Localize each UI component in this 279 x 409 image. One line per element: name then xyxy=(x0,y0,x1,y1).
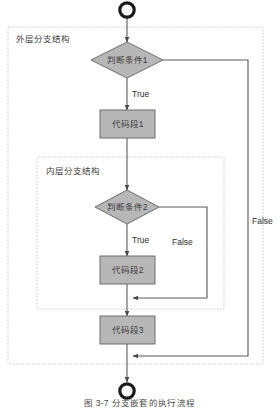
start-terminator xyxy=(120,3,134,17)
flowchart-figure: 外层分支结构 内层分支结构 判断条件1 代码段1 判断条件2 xyxy=(0,0,279,409)
process-code3-label: 代码段3 xyxy=(112,325,144,335)
edge-label-inner-true: True xyxy=(132,235,149,245)
edge-label-inner-false: False xyxy=(172,237,193,247)
outer-branch-label: 外层分支结构 xyxy=(16,34,70,44)
process-code1-label: 代码段1 xyxy=(112,119,144,129)
decision-cond2-label: 判断条件2 xyxy=(107,202,148,212)
inner-branch-container xyxy=(37,157,224,309)
figure-caption: 图 3-7 分支嵌套的执行流程 xyxy=(0,396,279,408)
decision-cond1-label: 判断条件1 xyxy=(107,55,148,65)
process-code2-label: 代码段2 xyxy=(112,265,144,275)
inner-branch-label: 内层分支结构 xyxy=(46,166,100,176)
edge-label-outer-true: True xyxy=(132,89,149,99)
edge-label-outer-false: False xyxy=(252,216,273,226)
flowchart-canvas: 外层分支结构 内层分支结构 判断条件1 代码段1 判断条件2 xyxy=(0,0,279,409)
